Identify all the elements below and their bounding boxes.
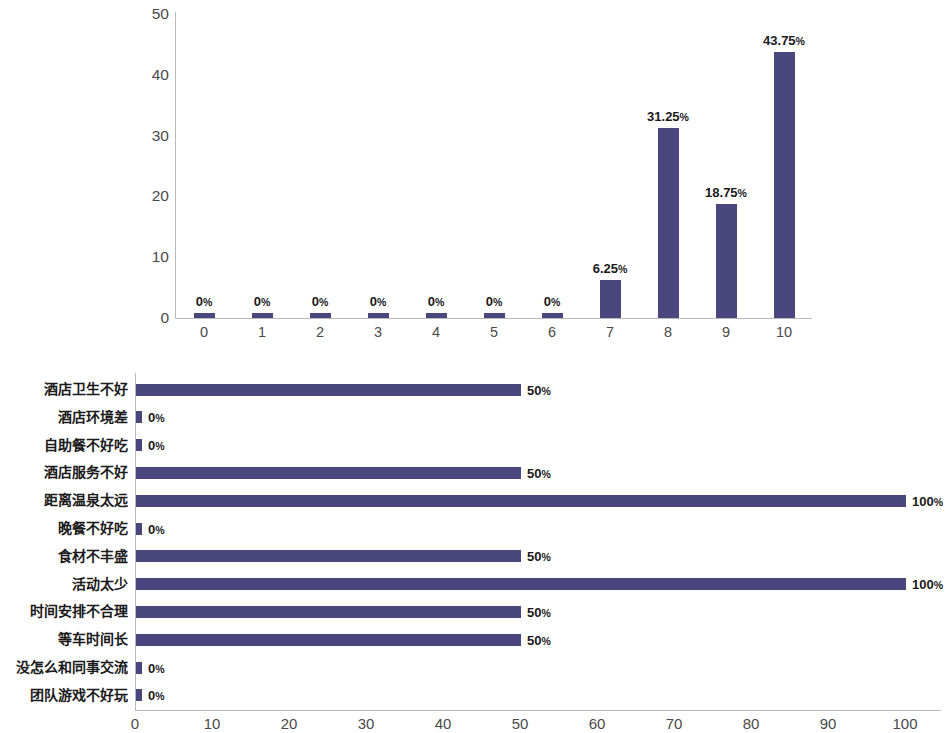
vertical-bar-column[interactable]: 0%	[465, 14, 523, 318]
vertical-chart-y-tick: 30	[135, 128, 169, 144]
horizontal-bar-row[interactable]: 没怎么和同事交流0%	[0, 654, 951, 681]
horizontal-chart-category-label: 团队游戏不好玩	[0, 682, 128, 709]
horizontal-chart-category-label: 酒店服务不好	[0, 459, 128, 486]
vertical-chart-x-tick: 1	[233, 325, 291, 340]
horizontal-bar-value-label: 0%	[148, 439, 165, 452]
vertical-chart-plot-area: 0%0%0%0%0%0%0%6.25%31.25%18.75%43.75%	[175, 14, 812, 318]
vertical-bar[interactable]	[774, 52, 795, 318]
horizontal-chart-category-label: 食材不丰盛	[0, 543, 128, 570]
vertical-bar[interactable]	[600, 280, 621, 318]
vertical-chart-x-tick: 9	[697, 325, 755, 340]
horizontal-bar-value-label: 50%	[527, 605, 551, 618]
vertical-bar[interactable]	[658, 128, 679, 318]
horizontal-bar[interactable]	[136, 578, 906, 590]
vertical-bar[interactable]	[716, 204, 737, 318]
vertical-bar-column[interactable]: 6.25%	[581, 14, 639, 318]
vertical-bar-column[interactable]: 0%	[523, 14, 581, 318]
vertical-bar-value-label: 0%	[312, 295, 329, 308]
vertical-bar[interactable]	[252, 313, 273, 318]
vertical-chart-x-tick: 5	[465, 325, 523, 340]
vertical-bar-column[interactable]: 0%	[233, 14, 291, 318]
vertical-bar[interactable]	[484, 313, 505, 318]
horizontal-chart-x-axis-line	[135, 710, 941, 711]
vertical-chart-y-tick-labels: 01020304050	[131, 0, 169, 350]
horizontal-bar-value-label: 50%	[527, 550, 551, 563]
vertical-bar-value-label: 0%	[486, 295, 503, 308]
horizontal-bar-value-label: 0%	[148, 522, 165, 535]
vertical-chart-x-tick: 6	[523, 325, 581, 340]
horizontal-bar-value-label: 50%	[527, 383, 551, 396]
horizontal-chart-x-tick: 20	[259, 716, 319, 731]
horizontal-chart-x-tick: 30	[336, 716, 396, 731]
horizontal-bar-row[interactable]: 时间安排不合理50%	[0, 598, 951, 625]
horizontal-chart-category-label: 等车时间长	[0, 626, 128, 653]
vertical-bar[interactable]	[426, 313, 447, 318]
vertical-chart-y-tick: 0	[135, 310, 169, 326]
horizontal-bar-row[interactable]: 团队游戏不好玩0%	[0, 682, 951, 709]
horizontal-chart-x-tick: 100	[875, 716, 935, 731]
horizontal-bar[interactable]	[136, 384, 521, 396]
vertical-chart-x-tick: 0	[175, 325, 233, 340]
horizontal-bar[interactable]	[136, 523, 142, 535]
horizontal-bar[interactable]	[136, 662, 142, 674]
horizontal-bar[interactable]	[136, 550, 521, 562]
vertical-bar-value-label: 0%	[544, 295, 561, 308]
vertical-bar-value-label: 18.75%	[705, 186, 747, 199]
horizontal-bar[interactable]	[136, 689, 142, 701]
vertical-bar-value-label: 0%	[428, 295, 445, 308]
vertical-chart-x-tick: 10	[755, 325, 813, 340]
vertical-bar-column[interactable]: 18.75%	[697, 14, 755, 318]
horizontal-bar[interactable]	[136, 606, 521, 618]
horizontal-bar-chart: 酒店卫生不好50%酒店环境差0%自助餐不好吃0%酒店服务不好50%距离温泉太远1…	[0, 350, 951, 733]
horizontal-chart-category-label: 距离温泉太远	[0, 487, 128, 514]
horizontal-chart-x-tick: 40	[413, 716, 473, 731]
vertical-chart-x-tick: 3	[349, 325, 407, 340]
vertical-bar-value-label: 31.25%	[647, 110, 689, 123]
horizontal-bar-row[interactable]: 活动太少100%	[0, 571, 951, 598]
vertical-bar-column[interactable]: 0%	[175, 14, 233, 318]
horizontal-bar-row[interactable]: 自助餐不好吃0%	[0, 432, 951, 459]
horizontal-chart-x-tick: 50	[490, 716, 550, 731]
horizontal-bar[interactable]	[136, 495, 906, 507]
horizontal-bar-row[interactable]: 酒店服务不好50%	[0, 459, 951, 486]
vertical-bar[interactable]	[194, 313, 215, 318]
horizontal-bar[interactable]	[136, 411, 142, 423]
vertical-bar-value-label: 0%	[196, 295, 213, 308]
vertical-bar-value-label: 0%	[254, 295, 271, 308]
vertical-bar-column[interactable]: 31.25%	[639, 14, 697, 318]
vertical-chart-x-axis-line	[175, 318, 812, 319]
horizontal-bar-row[interactable]: 距离温泉太远100%	[0, 487, 951, 514]
vertical-bar[interactable]	[368, 313, 389, 318]
horizontal-bar-value-label: 0%	[148, 689, 165, 702]
vertical-bar-column[interactable]: 0%	[407, 14, 465, 318]
horizontal-chart-category-label: 酒店环境差	[0, 404, 128, 431]
vertical-bar[interactable]	[542, 313, 563, 318]
horizontal-chart-category-label: 酒店卫生不好	[0, 376, 128, 403]
horizontal-chart-x-tick: 0	[105, 716, 165, 731]
vertical-chart-y-tick: 40	[135, 67, 169, 83]
horizontal-chart-category-label: 晚餐不好吃	[0, 515, 128, 542]
horizontal-bar-row[interactable]: 晚餐不好吃0%	[0, 515, 951, 542]
vertical-bar-column[interactable]: 43.75%	[755, 14, 813, 318]
vertical-bar-value-label: 0%	[370, 295, 387, 308]
vertical-bar-column[interactable]: 0%	[349, 14, 407, 318]
vertical-bar-column[interactable]: 0%	[291, 14, 349, 318]
horizontal-bar[interactable]	[136, 634, 521, 646]
horizontal-bar-value-label: 50%	[527, 633, 551, 646]
horizontal-chart-category-label: 自助餐不好吃	[0, 432, 128, 459]
vertical-chart-x-tick: 2	[291, 325, 349, 340]
horizontal-chart-x-tick: 90	[798, 716, 858, 731]
horizontal-bar-row[interactable]: 酒店卫生不好50%	[0, 376, 951, 403]
horizontal-chart-x-tick: 80	[721, 716, 781, 731]
horizontal-chart-x-tick: 60	[567, 716, 627, 731]
horizontal-bar[interactable]	[136, 439, 142, 451]
horizontal-chart-category-label: 活动太少	[0, 571, 128, 598]
horizontal-chart-category-label: 没怎么和同事交流	[0, 654, 128, 681]
horizontal-bar[interactable]	[136, 467, 521, 479]
horizontal-bar-value-label: 0%	[148, 661, 165, 674]
horizontal-bar-row[interactable]: 等车时间长50%	[0, 626, 951, 653]
vertical-chart-y-tick: 10	[135, 249, 169, 265]
horizontal-bar-row[interactable]: 食材不丰盛50%	[0, 543, 951, 570]
vertical-bar[interactable]	[310, 313, 331, 318]
horizontal-bar-row[interactable]: 酒店环境差0%	[0, 404, 951, 431]
